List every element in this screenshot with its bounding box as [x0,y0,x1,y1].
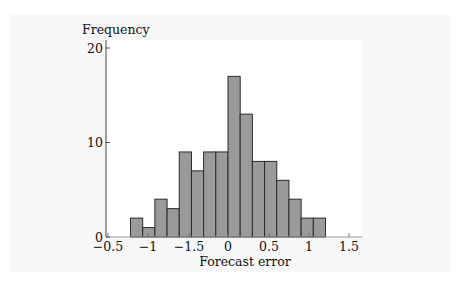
histogram-bar [228,76,240,237]
histogram-bar [131,218,143,237]
histogram-bar [289,199,301,237]
x-tick-label: −1 [139,239,157,254]
x-axis-title: Forecast error [199,254,291,269]
x-tick-label: 1.5 [339,239,359,254]
histogram-bar [240,114,252,237]
y-axis-ticks: 01020 [87,41,110,245]
histogram-bar [301,218,313,237]
histogram-chart: 01020 −0.5−1−1.500.511.5 Frequency Forec… [0,0,461,284]
histogram-bar [204,152,216,237]
histogram-bars [131,76,326,237]
histogram-bar [155,199,167,237]
histogram-bar [191,171,203,237]
histogram-bar [143,228,155,237]
x-tick-label: 1 [305,239,313,254]
histogram-bar [167,209,179,237]
histogram-bar [277,180,289,237]
histogram-bar [179,152,191,237]
histogram-bar [313,218,325,237]
y-axis-title: Frequency [82,22,151,37]
x-tick-label: 0.5 [259,239,279,254]
histogram-bar [252,161,264,237]
y-tick-label: 10 [87,135,103,150]
histogram-bar [216,152,228,237]
x-tick-label: −1.5 [174,239,204,254]
x-tick-label: −0.5 [93,239,123,254]
y-tick-label: 20 [87,41,103,56]
x-tick-label: 0 [224,239,232,254]
histogram-bar [265,161,277,237]
